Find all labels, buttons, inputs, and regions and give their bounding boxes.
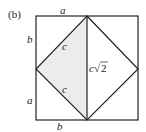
pythagoras-diagram: (b) a b a b c c c √ 2: [0, 0, 146, 132]
label-left-b: b: [27, 33, 33, 45]
panel-label: (b): [8, 8, 21, 21]
svg-text:2: 2: [101, 62, 107, 74]
label-hyp-lower-c: c: [62, 83, 67, 95]
label-bottom-b: b: [57, 120, 63, 132]
label-diagonal: c √ 2: [89, 62, 108, 74]
svg-text:√: √: [94, 62, 101, 74]
label-top-a: a: [60, 4, 66, 16]
label-hyp-upper-c: c: [62, 40, 67, 52]
shaded-triangle: [36, 16, 87, 120]
label-left-a: a: [27, 94, 33, 106]
